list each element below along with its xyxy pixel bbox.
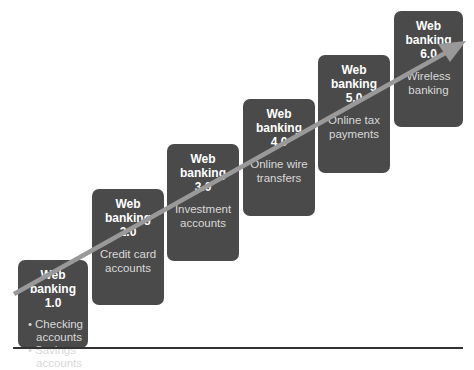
divider xyxy=(13,347,463,349)
